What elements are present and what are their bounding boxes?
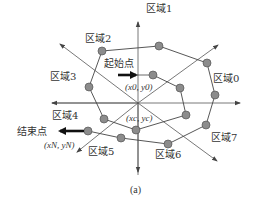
start-coord: (x0, y0) bbox=[125, 82, 152, 92]
spiral-region-diagram: 区域0 区域1 区域2 区域3 区域4 区域5 区域6 区域7 起始点 (x0,… bbox=[0, 0, 258, 208]
node bbox=[155, 42, 163, 50]
node bbox=[202, 121, 210, 129]
region-label-7: 区域7 bbox=[211, 131, 237, 143]
node bbox=[98, 47, 106, 55]
node bbox=[203, 59, 211, 67]
axes bbox=[52, 22, 240, 175]
region-labels: 区域0 区域1 区域2 区域3 区域4 区域5 区域6 区域7 bbox=[50, 2, 239, 160]
node bbox=[132, 126, 140, 134]
end-node bbox=[84, 127, 92, 135]
region-label-3: 区域3 bbox=[50, 70, 76, 82]
end-coord: (xN, yN) bbox=[44, 140, 75, 150]
node bbox=[182, 111, 190, 119]
start-label: 起始点 bbox=[104, 57, 134, 69]
node bbox=[117, 134, 125, 142]
region-label-4: 区域4 bbox=[52, 109, 78, 121]
start-node bbox=[149, 71, 157, 79]
node bbox=[100, 115, 108, 123]
center-coord: (xc, yc) bbox=[126, 113, 152, 123]
region-label-0: 区域0 bbox=[213, 72, 239, 84]
node bbox=[211, 91, 219, 99]
end-label: 结束点 bbox=[17, 125, 47, 137]
region-label-6: 区域6 bbox=[155, 148, 181, 160]
figure-caption: (a) bbox=[130, 184, 141, 196]
region-label-1: 区域1 bbox=[146, 2, 172, 14]
region-label-5: 区域5 bbox=[88, 145, 114, 157]
node bbox=[164, 140, 172, 148]
region-label-2: 区域2 bbox=[85, 32, 111, 44]
node bbox=[85, 83, 93, 91]
node bbox=[176, 84, 184, 92]
